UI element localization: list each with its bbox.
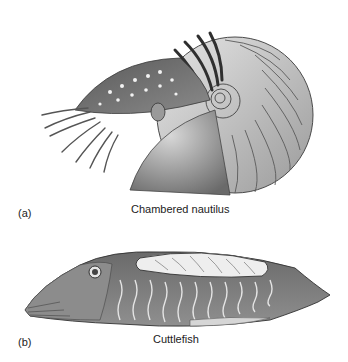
cuttlefish-illustration	[0, 240, 348, 335]
panel-b: (b) Cuttlefish	[0, 240, 348, 362]
panel-a-caption: Chambered nautilus	[131, 203, 229, 215]
nautilus-illustration	[0, 0, 348, 205]
panel-b-caption: Cuttlefish	[153, 333, 199, 345]
panel-a: (a) Chambered nautilus	[0, 0, 348, 230]
panel-b-letter: (b)	[18, 336, 31, 348]
panel-a-letter: (a)	[18, 207, 31, 219]
